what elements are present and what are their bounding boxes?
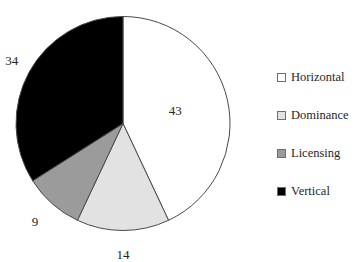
pie-slices-group <box>16 16 230 230</box>
legend-label-vertical: Vertical <box>291 185 330 198</box>
legend-item-licensing: Licensing <box>277 134 355 172</box>
legend-label-horizontal: Horizontal <box>291 71 344 84</box>
legend-item-horizontal: Horizontal <box>277 58 355 96</box>
legend-swatch-licensing <box>277 149 286 158</box>
chart-legend: Horizontal Dominance Licensing Vertical <box>277 58 355 210</box>
slice-label-horizontal: 43 <box>169 103 182 118</box>
slice-label-licensing: 9 <box>32 214 39 229</box>
pie-chart-figure: 43 14 9 34 Horizontal Dominance Licensin… <box>0 0 355 262</box>
slice-label-vertical: 34 <box>5 53 19 68</box>
pie-chart-svg: 43 14 9 34 <box>0 0 248 262</box>
legend-item-dominance: Dominance <box>277 96 355 134</box>
legend-label-licensing: Licensing <box>291 147 340 160</box>
legend-label-dominance: Dominance <box>291 109 349 122</box>
legend-swatch-dominance <box>277 111 286 120</box>
legend-item-vertical: Vertical <box>277 172 355 210</box>
slice-label-dominance: 14 <box>117 247 131 262</box>
legend-swatch-horizontal <box>277 73 286 82</box>
legend-swatch-vertical <box>277 187 286 196</box>
